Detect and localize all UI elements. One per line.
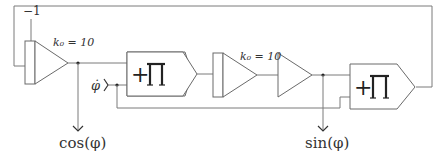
phi-dot-label: φ̇ [91,79,100,92]
block-diagram: + + [0,0,440,162]
gain-label-1: k₀ = 10 [53,37,94,48]
multiplier-2: + [350,64,415,109]
neg-one-label: −1 [23,5,41,17]
sin-output-label: sin(φ) [305,136,349,151]
multiplier-1-symbol: + [131,62,149,87]
mult2-lower-input-wire [340,97,350,108]
gain-label-2: k₀ = 10 [240,51,281,62]
cos-output-label: cos(φ) [59,136,106,151]
buffer-amp [278,53,312,97]
multiplier-2-symbol: + [354,75,372,100]
multiplier-1: + [127,52,197,96]
phi-dot-input-icon [104,79,108,91]
